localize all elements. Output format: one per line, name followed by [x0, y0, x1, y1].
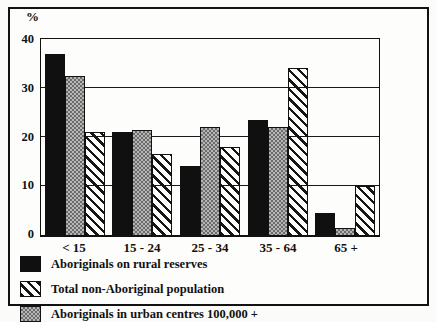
- legend-label: Total non-Aboriginal population: [51, 282, 224, 297]
- bar-group-15-24: [109, 39, 177, 235]
- y-tick-40: 40: [10, 33, 34, 46]
- legend-item: Aboriginals in urban centres 100,000 +: [20, 306, 426, 322]
- chart-frame: % 010203040 < 1515 - 2425 - 3435 - 6465 …: [8, 7, 429, 306]
- bar-diagonal-hatch: [355, 186, 375, 235]
- bar-gray-checker: [65, 76, 85, 235]
- bar-solid-black: [315, 213, 335, 235]
- bar-solid-black: [45, 54, 65, 235]
- bar-gray-checker: [132, 130, 152, 235]
- legend: Aboriginals on rural reservesTotal non-A…: [20, 256, 426, 322]
- legend-label: Aboriginals on rural reserves: [51, 257, 207, 272]
- y-tick-10: 10: [10, 179, 34, 192]
- x-axis: < 1515 - 2425 - 3435 - 6465 +: [40, 240, 380, 256]
- x-tick-25-34: 25 - 34: [176, 240, 244, 256]
- bar-gray-checker: [200, 127, 220, 235]
- bar-diagonal-hatch: [85, 132, 105, 235]
- legend-item: Total non-Aboriginal population: [20, 281, 426, 297]
- bar-diagonal-hatch: [288, 68, 308, 235]
- legend-item: Aboriginals on rural reserves: [20, 256, 232, 272]
- bar-diagonal-hatch: [220, 147, 240, 235]
- bar-gray-checker: [335, 228, 355, 235]
- x-tick-65+: 65 +: [312, 240, 380, 256]
- x-tick-<15: < 15: [40, 240, 108, 256]
- solid-black-swatch: [20, 256, 41, 272]
- bar-diagonal-hatch: [152, 154, 172, 235]
- x-tick-35-64: 35 - 64: [244, 240, 312, 256]
- x-tick-15-24: 15 - 24: [108, 240, 176, 256]
- plot-area: [40, 38, 380, 237]
- bar-solid-black: [180, 166, 200, 235]
- bar-solid-black: [112, 132, 132, 235]
- y-tick-0: 0: [10, 228, 34, 241]
- y-axis-unit-label: %: [26, 9, 39, 25]
- diagonal-hatch-swatch: [20, 281, 41, 297]
- bar-group-<15: [41, 39, 109, 235]
- y-tick-30: 30: [10, 82, 34, 95]
- bar-gray-checker: [268, 127, 288, 235]
- y-tick-20: 20: [10, 131, 34, 144]
- y-axis: 010203040: [10, 38, 36, 237]
- legend-label: Aboriginals in urban centres 100,000 +: [51, 307, 258, 322]
- gray-checker-swatch: [20, 306, 41, 322]
- bar-group-65+: [311, 39, 379, 235]
- bar-group-35-64: [244, 39, 312, 235]
- bar-solid-black: [248, 120, 268, 235]
- bar-group-25-34: [176, 39, 244, 235]
- bar-groups: [41, 39, 379, 235]
